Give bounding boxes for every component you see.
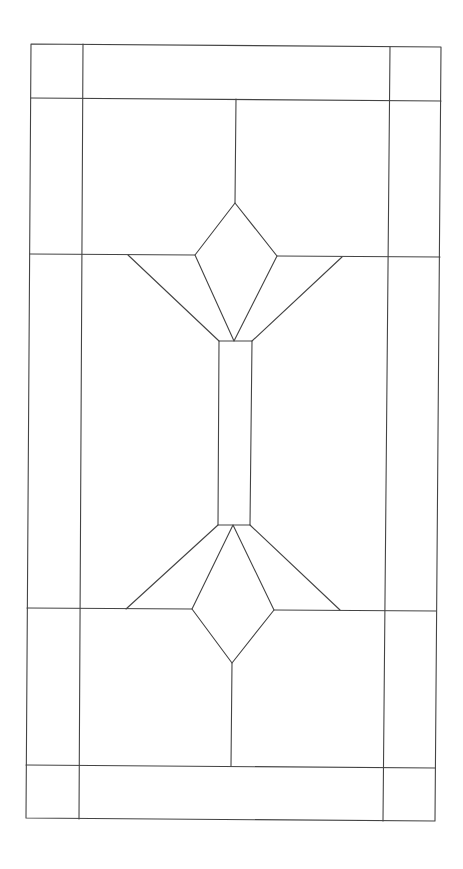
stained-glass-diagram (0, 0, 463, 869)
